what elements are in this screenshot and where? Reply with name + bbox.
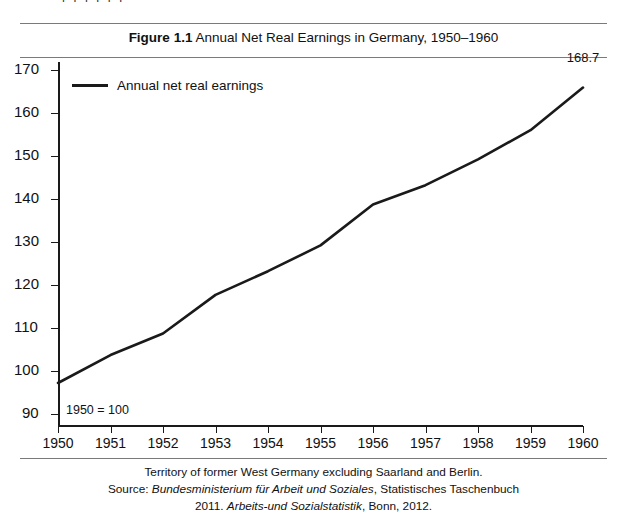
x-tick-1952 [163, 426, 164, 433]
footnote-line-source: Source: Bundesministerium für Arbeit und… [20, 481, 607, 498]
figure-title: Figure 1.1 Annual Net Real Earnings in G… [20, 30, 607, 45]
footnote-line-publication: 2011. Arbeits-und Sozialstatistik, Bonn,… [20, 498, 607, 515]
footnote-source-prefix: Source: [108, 482, 152, 496]
footnote-pub-italic: Arbeits-und Sozialstatistik [227, 499, 362, 513]
legend-line-swatch [72, 84, 108, 87]
y-tick-label-170: 170 [14, 60, 39, 77]
x-tick-label-1960: 1960 [567, 435, 598, 451]
y-tick-label-110: 110 [14, 318, 38, 335]
x-tick-label-1954: 1954 [252, 435, 283, 451]
index-base-note: 1950 = 100 [66, 403, 129, 417]
footnote-source-suffix: , Statistisches Taschenbuch [374, 482, 519, 496]
endpoint-value-label: 168.7 [567, 50, 600, 65]
y-tick-label-130: 130 [14, 232, 39, 249]
x-tick-1950 [58, 426, 59, 433]
footnote-pub-prefix: 2011. [195, 499, 227, 513]
figure-title-text: Annual Net Real Earnings in Germany, 195… [195, 30, 498, 45]
x-tick-label-1952: 1952 [147, 435, 178, 451]
footnote-pub-suffix: , Bonn, 2012. [362, 499, 432, 513]
x-tick-1954 [268, 426, 269, 433]
figure-container: Figure 1.1 Annual Net Real Earnings in G… [0, 0, 627, 523]
y-tick-label-140: 140 [14, 189, 39, 206]
y-axis-line [58, 62, 60, 426]
x-tick-1960 [583, 426, 584, 433]
x-tick-label-1955: 1955 [305, 435, 336, 451]
x-tick-label-1951: 1951 [95, 435, 126, 451]
x-tick-1953 [216, 426, 217, 433]
x-tick-label-1953: 1953 [200, 435, 231, 451]
x-tick-label-1959: 1959 [515, 435, 546, 451]
x-tick-1959 [531, 426, 532, 433]
y-tick-label-160: 160 [14, 103, 39, 120]
x-tick-1958 [478, 426, 479, 433]
figure-rule-under-title [20, 57, 607, 58]
x-tick-label-1957: 1957 [410, 435, 441, 451]
x-tick-1956 [373, 426, 374, 433]
chart-legend: Annual net real earnings [72, 78, 263, 93]
legend-label-earnings: Annual net real earnings [117, 78, 263, 93]
y-tick-label-120: 120 [14, 275, 39, 292]
x-tick-label-1950: 1950 [42, 435, 73, 451]
y-tick-label-90: 90 [22, 404, 39, 421]
figure-footnote: Territory of former West Germany excludi… [20, 464, 607, 514]
figure-rule-bottom [20, 458, 607, 459]
figure-rule-top [20, 23, 607, 24]
footnote-source-italic: Bundesministerium für Arbeit und Soziale… [152, 482, 374, 496]
y-tick-label-150: 150 [14, 146, 39, 163]
figure-number: Figure 1.1 [129, 30, 193, 45]
y-tick-label-100: 100 [14, 361, 39, 378]
x-tick-1955 [321, 426, 322, 433]
x-tick-label-1958: 1958 [462, 435, 493, 451]
x-tick-label-1956: 1956 [357, 435, 388, 451]
x-tick-1951 [111, 426, 112, 433]
footnote-line-territory: Territory of former West Germany excludi… [20, 464, 607, 481]
x-tick-1957 [426, 426, 427, 433]
